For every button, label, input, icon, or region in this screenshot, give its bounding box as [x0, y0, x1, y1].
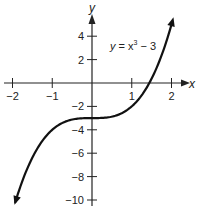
y-axis-label: y	[88, 1, 96, 15]
y-tick-label: −10	[65, 194, 84, 206]
y-tick-label: −6	[71, 147, 84, 159]
y-tick-label: 4	[78, 30, 84, 42]
y-tick-label: −4	[71, 124, 84, 136]
x-axis-label: x	[188, 77, 196, 91]
y-tick-label: −2	[71, 100, 84, 112]
cubic-function-graph: −2−11242−2−4−6−8−10 x y y = x3 − 3	[0, 0, 197, 209]
y-tick-label: −8	[71, 171, 84, 183]
equation-annotation: y = x3 − 3	[109, 39, 156, 52]
x-tick-label: 2	[168, 90, 174, 102]
equation-tail: − 3	[137, 40, 156, 52]
curve-arrow-top-icon	[167, 17, 174, 27]
axes	[4, 14, 190, 206]
curve-arrow-bottom-icon	[14, 195, 21, 205]
x-tick-label: −2	[6, 90, 19, 102]
y-axis-arrow-icon	[89, 14, 96, 24]
x-tick-label: −1	[46, 90, 59, 102]
equation-eq: = x	[116, 40, 135, 52]
y-tick-label: 2	[78, 54, 84, 66]
cubic-curve	[15, 26, 171, 202]
x-tick-label: 1	[129, 90, 135, 102]
